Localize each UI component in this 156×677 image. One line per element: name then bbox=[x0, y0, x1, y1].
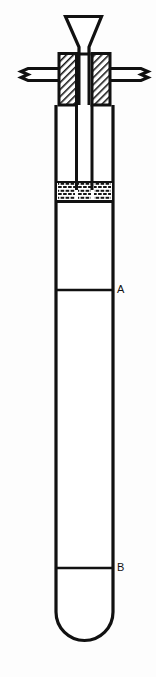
stopper-block-left bbox=[59, 54, 77, 106]
support-bar-left-arm bbox=[21, 69, 59, 81]
level-label-a: A bbox=[117, 283, 125, 295]
funnel-outline bbox=[66, 17, 102, 55]
support-bar-right-arm bbox=[110, 69, 148, 81]
hatched-stopper bbox=[59, 54, 110, 106]
support-bar-with-break-symbols bbox=[21, 69, 148, 81]
stopper-block-right bbox=[92, 54, 110, 106]
apparatus-diagram: A B bbox=[0, 0, 156, 677]
apparatus-svg-canvas: A B bbox=[0, 0, 156, 677]
granular-liquid-bed bbox=[56, 180, 114, 204]
level-label-b: B bbox=[117, 561, 124, 573]
